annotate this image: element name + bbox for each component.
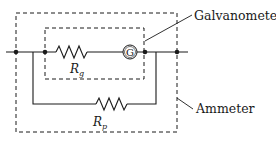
junction-left-terminal — [14, 50, 19, 55]
galvanometer-g-glyph: G — [126, 47, 134, 58]
resistor-rg — [56, 46, 87, 58]
galvanometer-leader-line — [145, 15, 192, 41]
junction-right-terminal — [175, 50, 180, 55]
galvanometer-callout-label: Galvanometer — [194, 8, 276, 23]
ammeter-callout-label: Ammeter — [195, 101, 255, 116]
ammeter-circuit-diagram: G Rg Rp Galvanometer Ammeter — [0, 0, 276, 145]
galvanometer-symbol: G — [123, 45, 137, 59]
junction-galv-right — [143, 50, 148, 55]
label-rg: Rg — [69, 62, 84, 78]
shunt-wire-right — [127, 52, 156, 104]
junction-galv-left — [43, 50, 48, 55]
resistor-rp — [96, 98, 127, 110]
ammeter-leader-line — [177, 98, 193, 109]
label-rp: Rp — [92, 115, 107, 131]
shunt-wire-left — [33, 52, 96, 104]
